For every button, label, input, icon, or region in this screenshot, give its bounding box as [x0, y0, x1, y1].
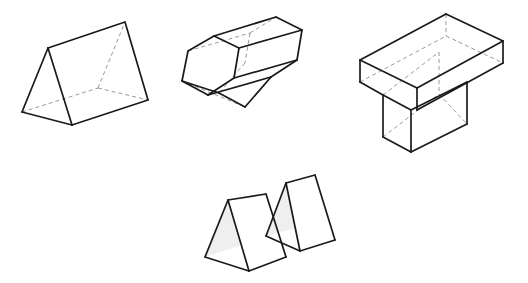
solids-figure-svg	[0, 0, 528, 283]
figure-triangular-prism-large	[22, 22, 148, 125]
figure-hexagonal-prism	[182, 17, 302, 107]
figure-twin-triangular-prisms	[205, 175, 335, 271]
figure-t-shaped-prism	[360, 14, 503, 152]
geometric-solids-diagram	[0, 0, 528, 283]
